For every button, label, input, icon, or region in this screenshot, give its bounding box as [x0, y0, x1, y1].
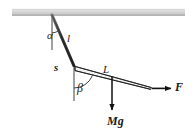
beta-angle-label: β — [77, 82, 83, 94]
diagram-canvas — [0, 0, 193, 134]
physics-diagram-figure: α l s β L F Mg — [0, 0, 193, 134]
ceiling-bar — [12, 9, 185, 15]
string-core-line — [52, 15, 74, 66]
distance-s-label: s — [54, 62, 58, 73]
rod-length-label: L — [103, 64, 109, 75]
string-length-label: l — [67, 33, 70, 44]
ceiling-group — [12, 9, 185, 15]
rod-group — [75, 66, 152, 89]
alpha-angle-label: α — [47, 30, 53, 41]
applied-force-label: F — [175, 81, 183, 93]
rod-top-edge — [75, 66, 152, 87]
weight-force-label: Mg — [107, 115, 124, 127]
rod-bottom-edge — [75, 71, 151, 90]
